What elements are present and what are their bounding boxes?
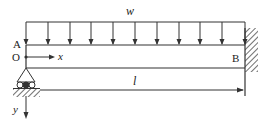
roller-support: [13, 68, 40, 97]
ground-hatch: [13, 89, 40, 97]
x-axis-label: x: [57, 50, 63, 62]
x-axis: x: [24, 50, 63, 62]
load-label: w: [126, 4, 134, 18]
end-a-label: A: [13, 38, 21, 50]
end-b-label: B: [232, 52, 239, 64]
span-label: l: [133, 74, 137, 88]
origin-label: O: [12, 51, 20, 63]
load-arrows: [24, 22, 248, 45]
fixed-wall: [245, 28, 258, 96]
beam-diagram: w A B x O l y: [0, 0, 270, 125]
span-dimension: l: [40, 74, 244, 93]
y-axis-label: y: [12, 103, 18, 115]
distributed-load: w: [24, 4, 248, 45]
y-axis: y: [12, 96, 29, 119]
